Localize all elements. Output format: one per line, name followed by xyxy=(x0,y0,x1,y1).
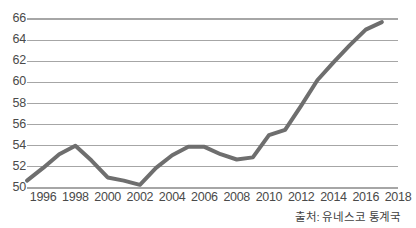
x-tick-label: 2018 xyxy=(378,191,416,204)
y-tick-label: 66 xyxy=(0,12,26,24)
gridlines xyxy=(27,19,398,188)
y-tick-label: 50 xyxy=(0,181,26,193)
source-note: 출처: 유네스코 통계국 xyxy=(295,208,401,224)
y-tick-label: 60 xyxy=(0,75,26,87)
y-tick-label: 64 xyxy=(0,33,26,45)
y-tick-label: 62 xyxy=(0,54,26,66)
y-tick-label: 56 xyxy=(0,118,26,130)
y-tick-label: 54 xyxy=(0,139,26,151)
y-tick-label: 58 xyxy=(0,97,26,109)
y-tick-label: 52 xyxy=(0,160,26,172)
